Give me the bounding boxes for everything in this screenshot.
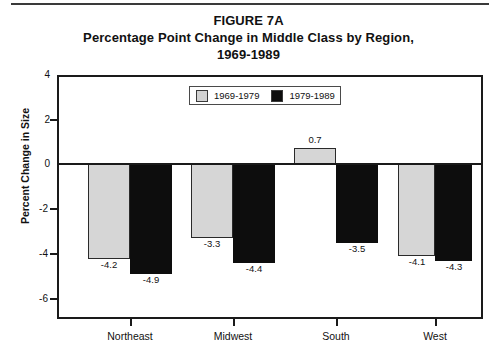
legend-entry-1979-1989: 1979-1989	[271, 87, 334, 104]
x-tick-mark-midwest	[233, 319, 235, 326]
bar-value-south-1969-1979: 0.7	[293, 134, 337, 145]
top-rule-divider	[11, 3, 489, 5]
bar-value-northeast-1969-1979: -4.2	[87, 259, 131, 270]
y-tick-mark-2	[50, 119, 57, 121]
bar-value-south-1979-1989: -3.5	[335, 243, 379, 254]
bar-midwest-1969-1979	[191, 164, 233, 238]
bar-northeast-1969-1979	[88, 164, 130, 259]
bar-south-1979-1989	[336, 164, 378, 243]
y-tick-mark-neg4	[50, 253, 57, 255]
zero-baseline	[57, 163, 483, 165]
figure-title-block: FIGURE 7A Percentage Point Change in Mid…	[0, 12, 497, 63]
x-tick-label-midwest: Midwest	[178, 330, 288, 342]
figure-container: FIGURE 7A Percentage Point Change in Mid…	[0, 0, 497, 352]
x-tick-mark-northeast	[130, 319, 132, 326]
y-tick-label-neg2: -2	[24, 204, 48, 214]
legend-label-series-b: 1979-1989	[289, 90, 334, 101]
figure-title-line-3: 1969-1989	[0, 46, 497, 63]
figure-title-line-1: FIGURE 7A	[0, 12, 497, 29]
legend: 1969-1979 1979-1989	[189, 86, 341, 105]
y-tick-label-neg4: -4	[24, 249, 48, 259]
bar-west-1969-1979	[398, 164, 435, 256]
legend-swatch-icon-series-a	[196, 90, 208, 102]
y-tick-label-neg6: -6	[24, 294, 48, 304]
bar-west-1979-1989	[435, 164, 472, 261]
bar-value-northeast-1979-1989: -4.9	[129, 274, 173, 285]
y-tick-label-2: 2	[26, 115, 50, 125]
y-tick-label-0: 0	[26, 159, 50, 169]
x-tick-label-south: South	[281, 330, 391, 342]
bar-midwest-1979-1989	[233, 164, 275, 263]
y-tick-mark-neg6	[50, 298, 57, 300]
legend-entry-1969-1979: 1969-1979	[196, 87, 259, 104]
x-tick-label-west: West	[380, 330, 490, 342]
bar-northeast-1979-1989	[130, 164, 172, 274]
legend-swatch-icon-series-b	[271, 90, 283, 102]
bar-value-west-1979-1989: -4.3	[432, 261, 476, 272]
y-tick-label-4: 4	[26, 70, 50, 80]
x-tick-mark-south	[336, 319, 338, 326]
x-tick-label-northeast: Northeast	[75, 330, 185, 342]
legend-label-series-a: 1969-1979	[214, 90, 259, 101]
bar-south-1969-1979	[294, 148, 336, 164]
y-tick-mark-neg2	[50, 208, 57, 210]
bar-value-midwest-1969-1979: -3.3	[190, 238, 234, 249]
figure-title-line-2: Percentage Point Change in Middle Class …	[0, 29, 497, 46]
x-tick-mark-west	[435, 319, 437, 326]
bar-value-midwest-1979-1989: -4.4	[232, 263, 276, 274]
